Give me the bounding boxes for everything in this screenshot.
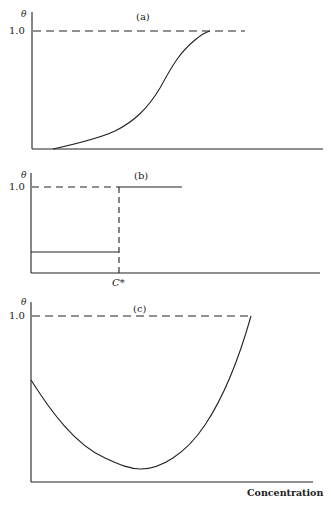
panel-b-cstar-tick: C* (112, 277, 125, 288)
panel-a-ylabel: θ (21, 9, 26, 19)
panel-c-xlabel: Concentration (247, 487, 323, 498)
figure-canvas (0, 0, 331, 509)
panel-b-title: (b) (134, 170, 148, 181)
panel-c-title: (c) (133, 303, 146, 314)
panel-c-curve (31, 316, 251, 469)
panel-c-ytick: 1.0 (9, 310, 25, 321)
panel-b-ytick: 1.0 (9, 181, 25, 192)
panel-a-title: (a) (136, 11, 150, 22)
panel-b-ylabel: θ (21, 170, 26, 180)
panel-a-ytick: 1.0 (9, 25, 25, 36)
panel-a-curve (53, 31, 210, 149)
panel-c-ylabel: θ (21, 297, 26, 307)
